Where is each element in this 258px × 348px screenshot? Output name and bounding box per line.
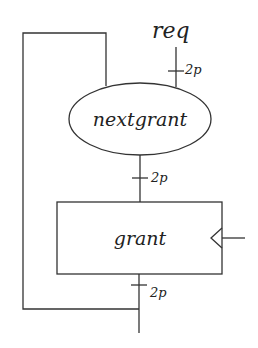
mid-bus-width: 2p	[150, 170, 168, 185]
feedback-wire	[23, 33, 139, 309]
req-label: req	[152, 18, 190, 43]
nextgrant-label: nextgrant	[93, 108, 188, 130]
arbiter-diagram: req 2p nextgrant 2p grant 2p	[0, 0, 258, 348]
req-bus-width: 2p	[184, 62, 202, 77]
grant-label: grant	[114, 227, 167, 249]
out-bus-width: 2p	[149, 285, 167, 300]
clock-triangle-icon	[211, 228, 222, 248]
